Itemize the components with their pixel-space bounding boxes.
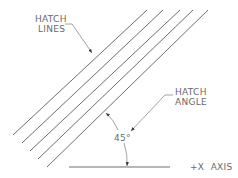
hatch-angle-label-line2: ANGLE (175, 97, 207, 107)
angle-value-label: 45° (114, 133, 131, 143)
hatch-angle-label-line1: HATCH (175, 87, 207, 97)
hatch-line (13, 10, 147, 135)
hatch-angle-diagram: HATCH LINES HATCH ANGLE 45° +X AXIS (0, 0, 238, 178)
angle-arc-upper (106, 113, 118, 130)
hatch-lines-leader (65, 24, 92, 53)
hatch-lines-label-line1: HATCH (35, 14, 67, 24)
hatch-angle-leader (131, 95, 173, 131)
angle-arc-lower (124, 143, 127, 166)
x-axis-label: +X AXIS (190, 162, 233, 172)
hatch-lines-label-line2: LINES (38, 24, 65, 34)
